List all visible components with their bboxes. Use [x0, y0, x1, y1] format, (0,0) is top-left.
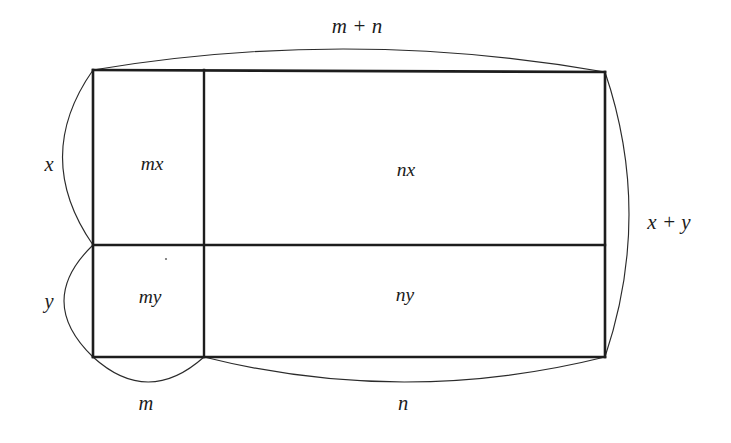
top-brace-label: m + n	[332, 14, 382, 38]
left-lower-brace-arc	[64, 245, 93, 357]
cell-label-bottom-right: ny	[396, 284, 415, 305]
left-lower-brace-label: y	[42, 290, 54, 313]
bottom-left-brace-arc	[93, 357, 204, 382]
cell-label-top-left: mx	[141, 153, 164, 174]
cell-label-top-right: nx	[397, 159, 416, 180]
left-upper-brace-arc	[63, 70, 94, 245]
scan-speck	[165, 258, 167, 260]
right-brace-label: x + y	[646, 210, 691, 234]
bottom-right-brace-label: n	[398, 392, 408, 414]
top-brace-arc	[93, 49, 605, 72]
cell-backgrounds	[93, 70, 605, 357]
right-brace-arc	[605, 72, 629, 357]
bottom-left-brace-label: m	[139, 392, 154, 414]
area-model-diagram: mx nx my ny m + n x + y x y m n	[0, 0, 731, 443]
cell-label-bottom-left: my	[139, 286, 162, 307]
cell-rect-top-right	[204, 71, 605, 245]
figure-canvas: mx nx my ny m + n x + y x y m n	[0, 0, 731, 443]
left-upper-brace-label: x	[43, 153, 53, 175]
bottom-right-brace-arc	[204, 357, 605, 382]
